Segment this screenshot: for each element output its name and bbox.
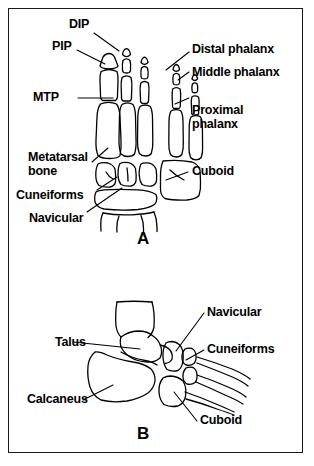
label-navicular-a: Navicular: [29, 212, 83, 225]
figure-root: DIP PIP MTP Metatarsal bone Cuneiforms N…: [0, 0, 314, 466]
label-dip: DIP: [69, 18, 89, 31]
label-cuboid-b: Cuboid: [200, 414, 242, 427]
label-middle-phalanx: Middle phalanx: [192, 66, 280, 79]
label-calcaneus: Calcaneus: [27, 393, 88, 406]
label-navicular-b: Navicular: [207, 306, 261, 319]
label-pip: PIP: [52, 40, 72, 53]
label-metatarsal-bone-line1: Metatarsal: [28, 151, 88, 164]
label-proximal-phalanx-line2: phalanx: [192, 118, 238, 131]
label-cuboid-a: Cuboid: [192, 165, 234, 178]
label-cuneiforms-b: Cuneiforms: [207, 343, 274, 356]
label-distal-phalanx: Distal phalanx: [192, 43, 274, 56]
label-mtp: MTP: [33, 91, 59, 104]
label-proximal-phalanx-line1: Proximal: [192, 104, 243, 117]
panel-letter-a: A: [137, 229, 149, 249]
label-cuneiforms-a: Cuneiforms: [16, 189, 83, 202]
label-metatarsal-bone-line2: bone: [28, 165, 57, 178]
label-talus: Talus: [55, 336, 86, 349]
panel-letter-b: B: [137, 424, 149, 444]
